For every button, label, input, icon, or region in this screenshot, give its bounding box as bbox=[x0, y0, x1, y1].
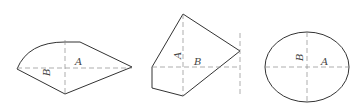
diagram-canvas: A B A B B A bbox=[0, 0, 363, 111]
pentagon-label-a: A bbox=[172, 52, 183, 60]
ellipse-label-a: A bbox=[320, 56, 328, 67]
kite-label-a: A bbox=[74, 56, 82, 67]
kite-label-b: B bbox=[41, 69, 52, 77]
ellipse-label-b: B bbox=[294, 54, 305, 62]
figure-ellipse: B A bbox=[265, 32, 349, 102]
figure-pentagon: A B bbox=[152, 14, 240, 96]
pentagon-outline bbox=[152, 14, 240, 96]
figure-kite-with-arc: A B bbox=[17, 40, 132, 94]
pentagon-label-b: B bbox=[193, 56, 201, 67]
diagram-svg: A B A B B A bbox=[0, 0, 363, 111]
